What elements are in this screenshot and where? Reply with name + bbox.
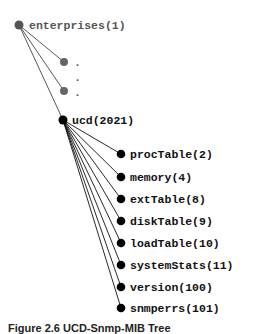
child-nodes: procTable(2) memory(4) extTable(8) diskT… (117, 148, 234, 315)
child-node-label: systemStats(11) (130, 259, 234, 272)
child-node-dot (117, 239, 126, 248)
child-node-dot (117, 283, 126, 292)
child-node-dot (117, 261, 126, 270)
root-edges (19, 25, 64, 120)
ellipsis-node-label: . (74, 86, 81, 99)
child-node-label: memory(4) (130, 171, 192, 184)
child-node-dot (117, 173, 126, 182)
ellipsis-middle-label: . (74, 71, 81, 84)
branch-edges (63, 120, 121, 308)
child-node-dot (117, 217, 126, 226)
child-node-label: loadTable(10) (130, 237, 220, 250)
ellipsis-node-dot (60, 87, 68, 95)
figure-caption: Figure 2.6 UCD-Snmp-MIB Tree (8, 322, 258, 334)
child-node-label: snmperrs(101) (130, 302, 220, 315)
mib-tree-diagram: enterprises(1) . . . ucd(2021) procTable… (0, 0, 258, 334)
branch-node-dot (59, 116, 68, 125)
child-node-label: diskTable(9) (130, 215, 213, 228)
child-node-dot (117, 304, 126, 313)
child-node-dot (117, 150, 126, 159)
root-node-dot (15, 21, 24, 30)
branch-node-label: ucd(2021) (72, 114, 134, 127)
child-node-label: extTable(8) (130, 193, 206, 206)
root-node-label: enterprises(1) (29, 19, 126, 32)
child-node-label: procTable(2) (130, 148, 213, 161)
ellipsis-node-label: . (74, 56, 81, 69)
child-node-label: version(100) (130, 281, 213, 294)
child-node-dot (117, 195, 126, 204)
ellipsis-node-dot (60, 58, 68, 66)
